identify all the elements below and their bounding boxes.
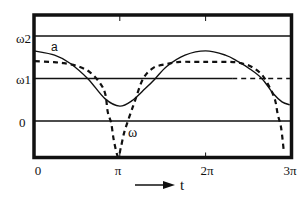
x-label-3pi: 3π: [283, 163, 297, 178]
curve-label-omega: ω: [128, 125, 137, 140]
curve-label-a: a: [51, 40, 58, 54]
x-label-zero: 0: [35, 163, 42, 178]
chart-background: [0, 0, 308, 199]
x-label-pi: π: [115, 163, 122, 178]
x-label-2pi: 2π: [200, 163, 214, 178]
y-label-omega1: ω1: [16, 72, 31, 87]
y-label-zero: 0: [19, 115, 26, 130]
y-label-omega2: ω2: [16, 31, 31, 46]
chart-canvas: ω2 ω1 0 0 π 2π 3π a ω t: [0, 0, 308, 199]
